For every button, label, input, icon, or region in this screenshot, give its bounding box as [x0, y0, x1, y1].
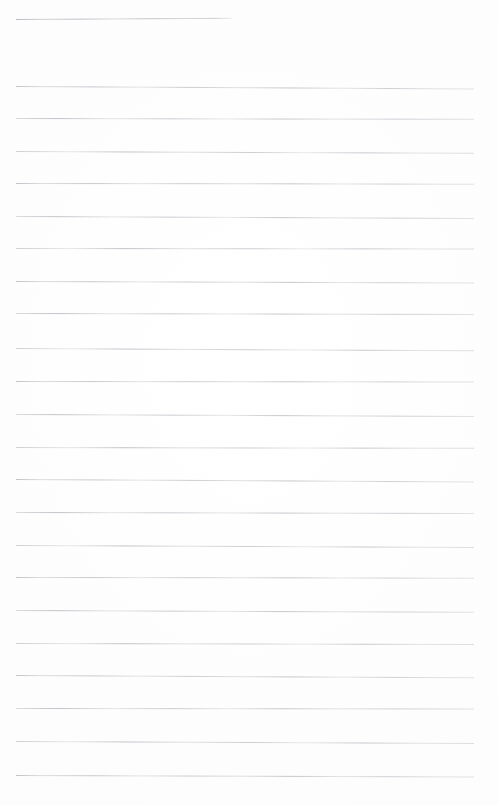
ruled-line-ink: [16, 348, 474, 351]
ruled-line-ink: [16, 512, 474, 514]
ruled-line: [16, 348, 474, 351]
ruled-line: [16, 447, 474, 449]
ruled-line: [16, 86, 474, 90]
ruled-line: [16, 741, 474, 744]
ruled-line-ink: [16, 216, 474, 219]
ruled-line: [16, 479, 474, 482]
ruled-line-ink: [16, 183, 474, 185]
ruled-line-ink: [16, 414, 474, 417]
ruled-line: [16, 545, 474, 548]
ruled-line: [16, 775, 474, 777]
scanned-page: [0, 0, 498, 805]
ruled-line: [16, 643, 474, 645]
ruled-line: [16, 512, 474, 514]
paper-texture: [0, 0, 498, 805]
ruled-line: [16, 183, 474, 185]
ruled-line: [16, 151, 474, 154]
ruled-line-ink: [16, 248, 474, 249]
ruled-line-ink: [16, 381, 474, 382]
ruled-line: [16, 708, 474, 709]
ruled-line: [16, 381, 474, 382]
ruled-line: [16, 216, 474, 219]
ruled-line-ink: [16, 281, 474, 284]
ruled-line-ink: [16, 610, 474, 613]
ruled-line-ink: [16, 708, 474, 709]
ruled-line-ink: [16, 86, 474, 90]
ruled-line-ink: [16, 18, 232, 20]
ruled-line: [16, 18, 232, 20]
ruled-line-ink: [16, 151, 474, 154]
ruled-line-ink: [16, 643, 474, 645]
ruled-line: [16, 675, 474, 678]
ruled-line: [16, 313, 474, 315]
ruled-line: [16, 118, 474, 120]
ruled-line-ink: [16, 675, 474, 678]
ruled-line-ink: [16, 577, 474, 579]
ruled-line-ink: [16, 775, 474, 777]
ruled-line-ink: [16, 447, 474, 449]
ruled-line-ink: [16, 545, 474, 548]
ruled-line-ink: [16, 479, 474, 482]
ruled-line: [16, 610, 474, 613]
ruled-line-ink: [16, 118, 474, 120]
ruled-line: [16, 248, 474, 249]
ruled-line: [16, 281, 474, 284]
ruled-line-ink: [16, 313, 474, 315]
ruled-line: [16, 577, 474, 579]
ruled-line: [16, 414, 474, 417]
ruled-line-ink: [16, 741, 474, 744]
